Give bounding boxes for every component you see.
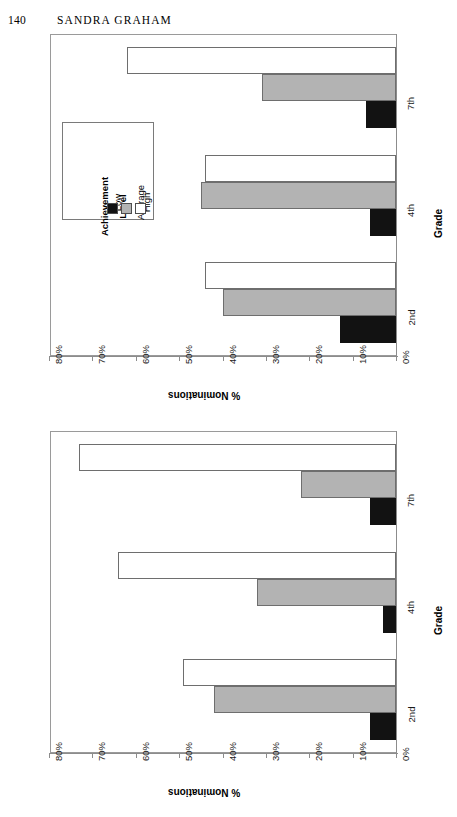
bar-low-2nd bbox=[340, 316, 396, 343]
bar-high-4th bbox=[118, 552, 396, 579]
value-axis-title: % Nominations bbox=[168, 787, 240, 798]
chart-latina-female-nominators: Latina Female Nominators 80%70%60%50%40%… bbox=[0, 28, 457, 416]
value-axis-tick bbox=[396, 753, 397, 758]
bar-high-4th bbox=[205, 155, 396, 182]
value-axis-tick-label: 60% bbox=[140, 742, 151, 761]
value-axis-tick-label: 0% bbox=[400, 350, 411, 364]
category-axis-label: 7th bbox=[405, 494, 416, 507]
page-number: 140 bbox=[8, 14, 26, 26]
bar-average-4th bbox=[201, 182, 396, 209]
value-axis-tick bbox=[223, 753, 224, 758]
value-axis-tick-label: 20% bbox=[313, 345, 324, 364]
value-axis-tick-label: 50% bbox=[183, 345, 194, 364]
bar-low-7th bbox=[370, 498, 396, 525]
value-axis-tick bbox=[92, 356, 93, 361]
bar-high-2nd bbox=[183, 659, 396, 686]
value-axis-tick bbox=[92, 753, 93, 758]
bar-low-2nd bbox=[370, 713, 396, 740]
bar-high-7th bbox=[79, 444, 396, 471]
bar-low-4th bbox=[383, 606, 396, 633]
bar-low-4th bbox=[370, 209, 396, 236]
running-head: SANDRA GRAHAM bbox=[57, 14, 172, 26]
value-axis-tick-label: 80% bbox=[53, 742, 64, 761]
bar-average-2nd bbox=[214, 686, 396, 713]
value-axis-tick bbox=[49, 356, 50, 361]
legend-swatch-low bbox=[107, 203, 118, 214]
bar-low-7th bbox=[366, 101, 396, 128]
value-axis-tick-label: 0% bbox=[400, 747, 411, 761]
value-axis-tick-label: 80% bbox=[53, 345, 64, 364]
value-axis-tick-label: 50% bbox=[183, 742, 194, 761]
value-axis-tick-label: 30% bbox=[270, 742, 281, 761]
bar-average-4th bbox=[257, 579, 396, 606]
bar-high-7th bbox=[127, 47, 396, 74]
value-axis-tick-label: 70% bbox=[96, 742, 107, 761]
category-axis-label: 4th bbox=[405, 204, 416, 217]
legend-swatch-high bbox=[135, 203, 146, 214]
category-axis-title: Grade bbox=[433, 606, 444, 635]
value-axis-tick bbox=[396, 356, 397, 361]
value-axis-tick bbox=[353, 356, 354, 361]
category-axis-line bbox=[396, 431, 397, 754]
value-axis-tick bbox=[309, 753, 310, 758]
bar-average-7th bbox=[262, 74, 396, 101]
value-axis-tick-label: 70% bbox=[96, 345, 107, 364]
bar-high-2nd bbox=[205, 262, 396, 289]
value-axis-tick-label: 20% bbox=[313, 742, 324, 761]
category-axis-label: 7th bbox=[405, 97, 416, 110]
value-axis-tick-label: 60% bbox=[140, 345, 151, 364]
value-axis-tick bbox=[223, 356, 224, 361]
category-axis-label: 4th bbox=[405, 601, 416, 614]
value-axis-tick-label: 10% bbox=[357, 345, 368, 364]
value-axis-tick-label: 40% bbox=[227, 742, 238, 761]
value-axis-tick-label: 30% bbox=[270, 345, 281, 364]
category-axis-line bbox=[396, 34, 397, 357]
value-axis-tick bbox=[179, 753, 180, 758]
legend: Achievement Level LowAverageHigh bbox=[62, 122, 154, 220]
category-axis-label: 2nd bbox=[406, 310, 417, 326]
value-axis-title: % Nominations bbox=[168, 390, 240, 401]
value-axis-tick bbox=[353, 753, 354, 758]
value-axis-tick bbox=[309, 356, 310, 361]
value-axis-tick bbox=[49, 753, 50, 758]
bar-average-2nd bbox=[223, 289, 397, 316]
value-axis-tick bbox=[136, 356, 137, 361]
bar-average-7th bbox=[301, 471, 396, 498]
value-axis-tick bbox=[266, 753, 267, 758]
chart-african-american-female-nominators: African American Female Nominators 80%70… bbox=[0, 425, 457, 813]
value-axis-tick bbox=[179, 356, 180, 361]
value-axis-tick bbox=[266, 356, 267, 361]
legend-swatch-average bbox=[121, 203, 132, 214]
value-axis-tick-label: 10% bbox=[357, 742, 368, 761]
value-axis-tick bbox=[136, 753, 137, 758]
category-axis-title: Grade bbox=[433, 209, 444, 238]
value-axis-tick-label: 40% bbox=[227, 345, 238, 364]
category-axis-label: 2nd bbox=[406, 707, 417, 723]
